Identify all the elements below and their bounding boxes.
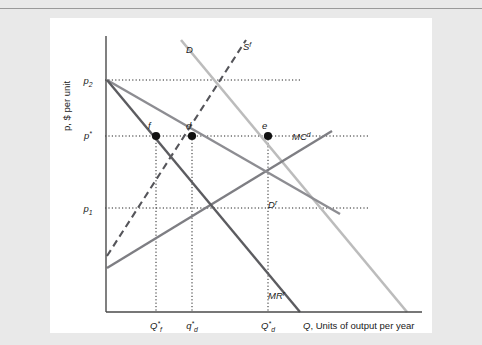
point-marker-e bbox=[264, 132, 272, 140]
curve-label-MCd-sup: d bbox=[307, 131, 311, 138]
point-label-e: e bbox=[262, 120, 267, 131]
point-label-d: d bbox=[186, 120, 192, 131]
y-axis-title: p, $ per unit bbox=[61, 81, 72, 132]
x-tick-label-qd: q*d bbox=[186, 320, 198, 333]
curve-label-MRr: MRr bbox=[268, 290, 286, 301]
curve-label-MCd-base: MC bbox=[292, 131, 307, 142]
x-tick-Qd-sub: d bbox=[271, 326, 275, 333]
x-tick-qd-sub: d bbox=[194, 326, 198, 333]
economics-supply-demand-chart: f d e D Sf MCd Dr MRr bbox=[50, 18, 432, 333]
curve-MRr bbox=[107, 80, 300, 312]
point-label-f: f bbox=[148, 120, 152, 131]
x-tick-label-Qd: Q*d bbox=[261, 320, 275, 333]
figure-card: f d e D Sf MCd Dr MRr bbox=[50, 18, 432, 333]
point-marker-f bbox=[152, 132, 160, 140]
x-axis-title: Q, Units of output per year bbox=[303, 320, 414, 331]
y-tick-labels-group: p2 p* p1 bbox=[82, 75, 92, 216]
x-tick-label-Qf: Q*f bbox=[150, 320, 163, 333]
x-tick-Qf-sub: f bbox=[160, 326, 163, 333]
top-horizontal-rule bbox=[0, 8, 482, 9]
curve-label-Dr-sup: r bbox=[275, 199, 278, 206]
curve-label-D: D bbox=[186, 44, 193, 55]
y-tick-p1-sub: 1 bbox=[89, 209, 93, 216]
x-tick-labels-group: Q*f q*d Q*d bbox=[150, 320, 275, 333]
y-tick-p2-sub: 2 bbox=[88, 81, 93, 88]
y-tick-pstar-sup: * bbox=[89, 130, 92, 137]
curve-label-Dr: Dr bbox=[268, 199, 278, 210]
y-tick-label-p2: p2 bbox=[82, 75, 92, 88]
point-marker-d bbox=[188, 132, 196, 140]
x-axis-title-rest: , Units of output per year bbox=[310, 320, 414, 331]
y-tick-label-pstar: p* bbox=[83, 130, 92, 141]
curve-MCd bbox=[107, 131, 332, 268]
curve-D bbox=[181, 40, 407, 312]
figure-frame: f d e D Sf MCd Dr MRr bbox=[0, 0, 482, 345]
curve-label-MCd: MCd bbox=[292, 131, 311, 142]
curve-label-Sf-sup: f bbox=[249, 41, 252, 48]
curves-group bbox=[107, 40, 407, 312]
curve-label-MRr-base: MR bbox=[268, 290, 283, 301]
y-tick-label-p1: p1 bbox=[82, 203, 92, 216]
curve-label-Sf: Sf bbox=[243, 41, 252, 52]
